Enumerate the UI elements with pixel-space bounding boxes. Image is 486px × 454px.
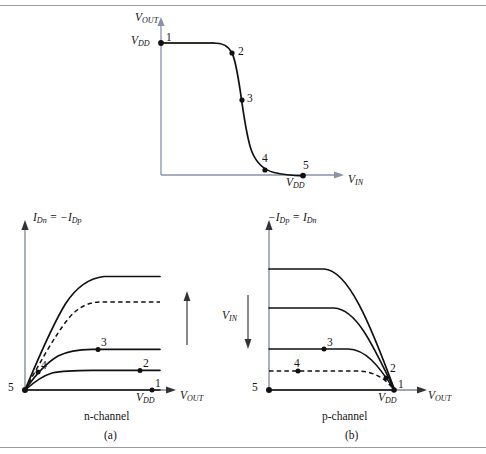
pchannel-point-2-dot: [384, 376, 389, 381]
pchannel-point-4-label: 4: [294, 358, 300, 370]
vin-direction-label: VIN: [222, 310, 237, 323]
nchannel-y-axis-label: IDn = −IDp: [33, 212, 82, 225]
pchannel-subtitle: p-channel: [322, 411, 367, 423]
nchannel-x-axis-label: VOUT: [180, 390, 203, 403]
pchannel-curve-2-dashed: [269, 371, 394, 390]
pchannel-point-3-dot: [322, 347, 327, 352]
vtc-point-3-dot: [239, 97, 244, 102]
vtc-point-1-dot: [158, 40, 164, 46]
vtc-point-1-label: 1: [166, 32, 172, 44]
pchannel-point-1-label: 1: [398, 379, 404, 391]
nchannel-point-3-label: 3: [101, 337, 107, 349]
vtc-chart-graphics: [0, 0, 486, 200]
pchannel-curve-3: [269, 349, 394, 389]
nchannel-curve-5: [25, 277, 160, 391]
vtc-point-2-dot: [229, 50, 234, 55]
vtc-x-tick-label-vdd: VDD: [286, 177, 305, 190]
pchannel-point-5-dot: [266, 387, 272, 393]
vtc-point-3-label: 3: [247, 93, 253, 105]
nchannel-curve-2: [25, 370, 160, 390]
vtc-point-5-label: 5: [303, 160, 309, 172]
vtc-point-4-dot: [262, 167, 267, 172]
bottom-divider-rule: [0, 447, 486, 448]
pchannel-point-3-label: 3: [327, 337, 333, 349]
nchannel-point-3-dot: [96, 347, 101, 352]
nchannel-y-axis-arrowhead: [21, 220, 28, 230]
vtc-y-axis-label: VOUT: [135, 12, 158, 25]
nchannel-point-4-dot: [36, 370, 41, 375]
nchannel-vin-arrow-head: [184, 291, 191, 301]
nchannel-curve-4-dashed: [25, 302, 160, 390]
nchannel-chart-graphics: [0, 200, 250, 440]
nchannel-point-5-label: 5: [8, 382, 14, 394]
nchannel-point-2-dot: [138, 368, 143, 373]
pchannel-y-axis-label: −IDp = IDn: [268, 212, 317, 225]
nchannel-point-1-label: 1: [155, 378, 161, 390]
pchannel-point-2-label: 2: [390, 363, 396, 375]
pchannel-vin-arrow-head: [245, 339, 252, 349]
nchannel-x-axis-arrowhead: [166, 386, 176, 393]
caption-b: (b): [345, 430, 358, 442]
pchannel-point-5-label: 5: [252, 382, 258, 394]
figure-root: VOUT VDD VDD VIN 1 2 3 4 5 IDn = −IDp VD…: [0, 0, 486, 454]
nchannel-point-4-label: 4: [41, 360, 47, 372]
pchannel-chart-graphics: [236, 200, 486, 440]
pchannel-x-tick-label-vdd: VDD: [378, 392, 397, 405]
vtc-point-4-label: 4: [262, 153, 268, 165]
nchannel-point-2-label: 2: [143, 358, 149, 370]
nchannel-x-tick-label-vdd: VDD: [136, 392, 155, 405]
pchannel-x-axis-arrowhead: [417, 386, 427, 393]
vtc-x-axis-label: VIN: [348, 174, 363, 187]
nchannel-point-5-dot: [22, 387, 28, 393]
caption-a: (a): [104, 430, 117, 442]
nchannel-subtitle: n-channel: [84, 411, 129, 423]
pchannel-x-axis-label: VOUT: [428, 390, 451, 403]
vtc-transfer-curve: [161, 43, 303, 176]
vtc-point-2-label: 2: [238, 46, 244, 58]
vtc-y-axis-arrowhead: [157, 17, 164, 26]
vtc-y-tick-label-vdd: VDD: [131, 35, 150, 48]
vtc-x-axis-arrowhead: [334, 171, 344, 178]
